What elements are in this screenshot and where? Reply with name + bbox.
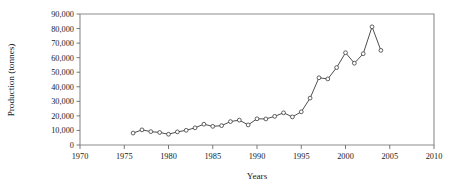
data-point [131,131,135,135]
data-point [140,128,144,132]
data-point [211,124,215,128]
x-tick-label: 2005 [381,152,398,161]
y-tick-label: 70,000 [51,39,74,48]
data-point [317,76,321,80]
data-point [167,132,171,136]
data-point [335,66,339,70]
data-point [326,77,330,81]
data-point [379,48,383,52]
data-point [158,131,162,135]
data-point [370,25,374,29]
y-tick-label: 0 [70,141,74,150]
axis-frame [80,14,434,145]
x-tick-label: 2010 [426,152,443,161]
data-point [229,120,233,124]
plot-axes [80,14,434,145]
x-tick-label: 1970 [72,152,89,161]
data-point [282,111,286,115]
x-axis-ticks: 197019751980198519901995200020052010 [72,145,443,161]
y-tick-label: 30,000 [51,97,74,106]
x-tick-label: 1975 [116,152,133,161]
y-axis-title: Production (tonnes) [6,44,16,117]
production-series-markers [131,25,383,136]
data-point [273,114,277,118]
data-point [291,115,295,119]
x-tick-label: 2000 [337,152,354,161]
data-point [308,96,312,100]
x-tick-label: 1980 [160,152,177,161]
data-point [175,130,179,134]
data-point [352,61,356,65]
data-point [220,124,224,128]
y-tick-label: 50,000 [51,68,74,77]
data-point [255,117,259,121]
data-point [264,117,268,121]
data-point [344,51,348,55]
y-tick-label: 60,000 [51,54,74,63]
data-point [299,110,303,114]
x-tick-label: 1990 [249,152,266,161]
x-tick-label: 1985 [204,152,221,161]
data-point [202,122,206,126]
data-point [149,130,153,134]
data-point [184,128,188,132]
y-tick-label: 10,000 [51,126,74,135]
production-line-chart: 010,00020,00030,00040,00050,00060,00070,… [0,0,463,184]
chart-figure: 010,00020,00030,00040,00050,00060,00070,… [0,0,463,184]
data-point [193,126,197,130]
y-tick-label: 20,000 [51,112,74,121]
data-point [361,52,365,56]
y-axis-ticks: 010,00020,00030,00040,00050,00060,00070,… [51,10,80,150]
y-tick-label: 90,000 [51,10,74,19]
y-tick-label: 40,000 [51,83,74,92]
y-tick-label: 80,000 [51,25,74,34]
data-point [246,123,250,127]
x-axis-title: Years [247,171,268,181]
data-point [237,118,241,122]
x-tick-label: 1995 [293,152,310,161]
